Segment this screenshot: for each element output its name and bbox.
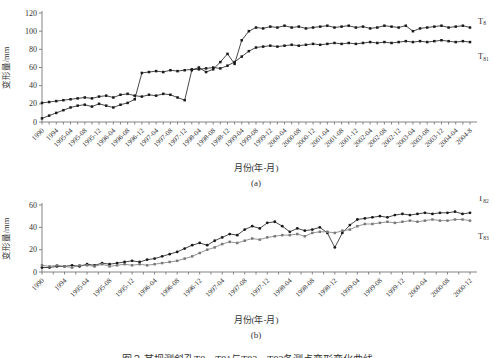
y-tick-label: 40 bbox=[29, 81, 37, 90]
y-tick-label: 20 bbox=[29, 99, 37, 108]
y-tick-label: 60 bbox=[29, 63, 37, 72]
chart-b: 0204060199019941995-041995-081995-121996… bbox=[0, 196, 495, 346]
x-tick-label: 2000-12 bbox=[452, 276, 475, 299]
x-tick-label: 1990 bbox=[30, 126, 46, 142]
x-tick-label: 1997-04 bbox=[204, 276, 227, 299]
figure-page: 020406080100120199019941995-041995-08199… bbox=[0, 0, 495, 358]
series-T81-markers bbox=[41, 39, 472, 120]
x-tick-label: 1996-12 bbox=[181, 276, 204, 299]
series-T82-markers bbox=[41, 210, 472, 269]
figure-caption: 图２ 某坝测斜孔T8、T81与T82、T83各测点变形变化曲线 bbox=[0, 351, 495, 358]
y-axis-title: 变形量/mm bbox=[1, 46, 11, 89]
x-tick-label: 1998-12 bbox=[317, 276, 340, 299]
series-T82-line bbox=[42, 212, 470, 268]
chart-sublabel: (b) bbox=[251, 330, 262, 340]
series-T83-label: T83 bbox=[478, 231, 489, 242]
series-T82-label: T82 bbox=[478, 196, 489, 204]
x-tick-label: 1990 bbox=[30, 276, 46, 292]
series-T81-label: T81 bbox=[478, 51, 489, 62]
series-T8-line bbox=[42, 26, 470, 103]
x-tick-label: 1995-12 bbox=[114, 276, 137, 299]
series-T8-label: T8 bbox=[478, 16, 486, 27]
y-tick-label: 0 bbox=[33, 268, 37, 277]
x-tick-label: 1995-08 bbox=[91, 276, 114, 299]
chart-a: 020406080100120199019941995-041995-08199… bbox=[0, 0, 495, 196]
y-tick-label: 100 bbox=[25, 27, 37, 36]
series-T83-markers bbox=[41, 218, 472, 269]
x-tick-label: 1997-12 bbox=[249, 276, 272, 299]
y-tick-label: 0 bbox=[33, 118, 37, 127]
x-tick-label: 1998-08 bbox=[294, 276, 317, 299]
x-tick-label: 1996-08 bbox=[159, 276, 182, 299]
axes-a: 020406080100120199019941995-041995-08199… bbox=[25, 9, 477, 149]
x-axis-title: 月份(年-月) bbox=[234, 162, 279, 173]
y-tick-label: 80 bbox=[29, 45, 37, 54]
x-tick-label: 1996-04 bbox=[136, 276, 159, 299]
x-tick-label: 2000-04 bbox=[407, 276, 430, 299]
y-axis-title: 变形量/mm bbox=[1, 217, 11, 260]
x-tick-label: 1994 bbox=[53, 276, 69, 292]
x-tick-label: 2000-08 bbox=[429, 276, 452, 299]
x-tick-label: 1999-12 bbox=[384, 276, 407, 299]
x-tick-label: 1998-04 bbox=[272, 276, 295, 299]
series-T8-markers bbox=[41, 24, 472, 104]
x-tick-label: 1999-08 bbox=[362, 276, 385, 299]
y-tick-label: 20 bbox=[29, 245, 37, 254]
x-tick-label: 2004-8 bbox=[454, 126, 474, 146]
x-tick-label: 1997-08 bbox=[226, 276, 249, 299]
series-T83-line bbox=[42, 220, 470, 268]
y-tick-label: 60 bbox=[29, 201, 37, 210]
y-tick-label: 120 bbox=[25, 9, 37, 18]
x-tick-label: 1999-04 bbox=[339, 276, 362, 299]
x-axis-title: 月份(年-月) bbox=[234, 314, 279, 325]
x-tick-label: 1995-04 bbox=[69, 276, 92, 299]
chart-sublabel: (a) bbox=[251, 178, 261, 188]
y-tick-label: 40 bbox=[29, 223, 37, 232]
